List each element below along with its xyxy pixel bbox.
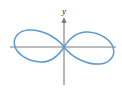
figure-container: y (0, 0, 122, 92)
lemniscate-plot: y (0, 0, 122, 92)
y-axis-label: y (61, 6, 66, 16)
y-axis-arrow-icon (61, 17, 66, 23)
